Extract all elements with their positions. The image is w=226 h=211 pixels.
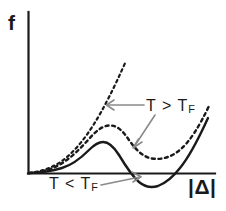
axis-group <box>28 12 215 174</box>
annotation-low-temp-label: T < TF <box>49 176 98 193</box>
annotation-low-temp-main: T < T <box>49 175 91 192</box>
annotation-high-temp-label: T > TF <box>146 98 195 115</box>
curve-high-temp-dashed <box>29 61 126 173</box>
x-axis-label: |Δ| <box>188 176 216 197</box>
y-axis-label: f <box>8 12 15 33</box>
free-energy-figure: f |Δ| T < TF T > TF <box>0 0 226 211</box>
annotation-low-temp-subscript: F <box>91 181 98 193</box>
curve-intermediate-dashed <box>29 106 209 173</box>
annotation-high-temp-main: T > T <box>146 97 188 114</box>
arrow-down-left-icon <box>133 115 155 148</box>
arrow-left-icon <box>107 100 145 110</box>
annotation-high-temp-subscript: F <box>188 103 195 115</box>
